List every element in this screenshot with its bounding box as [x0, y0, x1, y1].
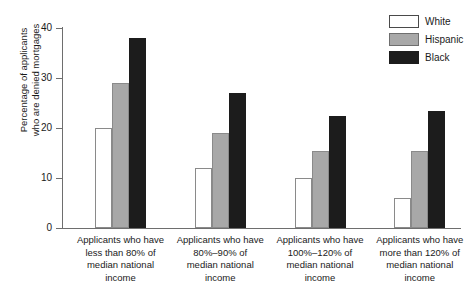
x-axis-line	[62, 228, 461, 229]
bar-black	[428, 111, 445, 229]
bar-black	[229, 93, 246, 228]
bar-chart: Percentage of applicants who are denied …	[0, 0, 476, 300]
y-axis-tick-label: 20	[30, 123, 52, 133]
bar-hispanic	[411, 151, 428, 229]
legend-label: Hispanic	[425, 34, 463, 45]
bar-hispanic	[312, 151, 329, 229]
category-label: Applicants who have more than 120% of me…	[364, 234, 476, 284]
legend-label: Black	[425, 52, 449, 63]
y-axis-tick	[56, 228, 62, 229]
bar-group	[162, 28, 262, 228]
legend-label: White	[425, 16, 451, 27]
bar-group	[262, 28, 362, 228]
bar-black	[129, 38, 146, 228]
category-label: Applicants who have 100%–120% of median …	[264, 234, 376, 284]
legend-swatch-white	[389, 15, 419, 28]
y-axis-tick-label: 0	[30, 223, 52, 233]
bar-white	[195, 168, 212, 228]
legend-swatch-black	[389, 51, 419, 64]
bar-white	[394, 198, 411, 228]
bar-hispanic	[212, 133, 229, 228]
y-axis-tick-label: 30	[30, 73, 52, 83]
legend-swatch-hispanic	[389, 33, 419, 46]
category-label: Applicants who have less than 80% of med…	[65, 234, 177, 284]
y-axis-tick-label: 40	[30, 23, 52, 33]
bar-group	[62, 28, 162, 228]
bar-black	[329, 116, 346, 229]
bar-white	[295, 178, 312, 228]
bar-white	[95, 128, 112, 228]
y-axis-tick-label: 10	[30, 173, 52, 183]
category-label: Applicants who have 80%–90% of median na…	[164, 234, 276, 284]
bar-hispanic	[112, 83, 129, 228]
